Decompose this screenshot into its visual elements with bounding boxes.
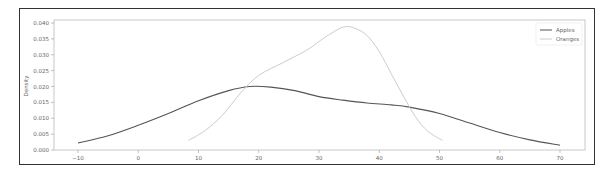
y-axis-label: Density xyxy=(23,75,30,97)
legend-label-apples: Apples xyxy=(556,27,575,34)
x-tick-label: 70 xyxy=(557,155,564,161)
y-axis: 0.0000.0050.0100.0150.0200.0250.0300.035… xyxy=(33,20,54,153)
x-tick-label: 20 xyxy=(255,155,262,161)
y-tick-label: 0.025 xyxy=(33,68,49,74)
x-tick-label: 30 xyxy=(316,155,323,161)
x-tick-label: 60 xyxy=(496,155,503,161)
series-line-apples xyxy=(78,86,560,145)
plot-area xyxy=(54,20,585,150)
x-tick-label: 40 xyxy=(376,155,383,161)
series-line-oranges xyxy=(188,26,442,140)
series-lines xyxy=(78,26,560,145)
x-axis: −10010203040506070 xyxy=(72,150,564,161)
y-tick-label: 0.005 xyxy=(33,131,49,137)
density-chart: 0.0000.0050.0100.0150.0200.0250.0300.035… xyxy=(0,0,612,177)
x-tick-label: −10 xyxy=(72,155,84,161)
legend: Apples Oranges xyxy=(536,23,582,45)
y-tick-label: 0.015 xyxy=(33,99,49,105)
y-tick-label: 0.040 xyxy=(33,20,49,26)
y-tick-label: 0.020 xyxy=(33,84,49,90)
x-tick-label: 10 xyxy=(195,155,202,161)
y-tick-label: 0.030 xyxy=(33,52,49,58)
axes-border xyxy=(54,20,585,150)
x-tick-label: 0 xyxy=(137,155,141,161)
y-tick-label: 0.000 xyxy=(33,147,49,153)
y-tick-label: 0.035 xyxy=(33,36,49,42)
y-tick-label: 0.010 xyxy=(33,115,49,121)
x-tick-label: 50 xyxy=(436,155,443,161)
legend-label-oranges: Oranges xyxy=(556,36,579,43)
